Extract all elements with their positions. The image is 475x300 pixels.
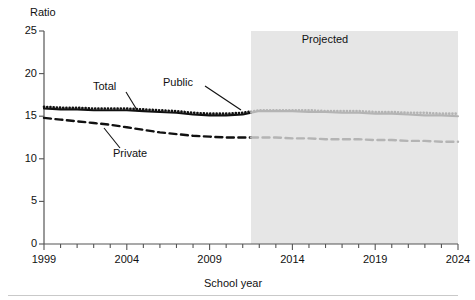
y-axis-title: Ratio — [30, 6, 56, 18]
series-label-total: Total — [93, 80, 116, 92]
y-tick-label: 0 — [11, 237, 37, 249]
annotation-leader-lines — [104, 86, 241, 148]
leader-line-public — [205, 86, 241, 110]
x-tick-label: 2019 — [352, 253, 398, 265]
series-line-private — [44, 118, 251, 138]
x-axis-title: School year — [0, 277, 466, 289]
leader-line-total — [126, 92, 137, 110]
x-tick-label: 2024 — [435, 253, 475, 265]
x-tick-label: 2014 — [269, 253, 315, 265]
y-tick-label: 5 — [11, 194, 37, 206]
y-tick-label: 10 — [11, 152, 37, 164]
leader-line-private — [104, 128, 120, 148]
projected-region-label: Projected — [0, 33, 466, 45]
x-tick-label: 2004 — [104, 253, 150, 265]
series-label-private: Private — [113, 147, 147, 159]
x-tick-label: 1999 — [21, 253, 67, 265]
y-tick-label: 15 — [11, 109, 37, 121]
y-tick-label: 20 — [11, 67, 37, 79]
footer-divider — [8, 295, 458, 296]
projected-region-label-text: Projected — [302, 33, 348, 45]
series-label-public: Public — [163, 76, 193, 88]
x-tick-label: 2009 — [187, 253, 233, 265]
